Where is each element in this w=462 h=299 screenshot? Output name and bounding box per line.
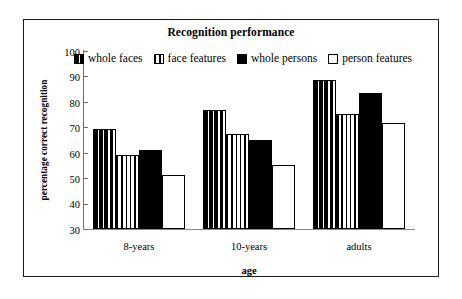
bar-group: 10-years — [194, 51, 304, 229]
y-axis-tick-label: 70 — [70, 123, 85, 134]
bar-whole-persons[interactable] — [249, 140, 272, 229]
legend-swatch-narrow-vertical-stripes-icon — [154, 54, 164, 64]
y-axis-tick: 60 — [70, 144, 85, 162]
bar-person-features[interactable] — [162, 175, 185, 229]
y-axis-tick: 90 — [70, 67, 85, 85]
y-axis-tick: 30 — [70, 220, 85, 238]
bar-whole-persons[interactable] — [359, 93, 382, 229]
bar-whole-persons[interactable] — [139, 150, 162, 229]
legend-item[interactable]: person features — [328, 53, 412, 65]
legend-item[interactable]: whole persons — [237, 53, 317, 65]
legend-label: face features — [168, 53, 226, 65]
legend-swatch-solid-black-icon — [237, 54, 247, 64]
x-axis-category-label: 10-years — [194, 241, 304, 252]
y-axis-tick-label: 80 — [70, 98, 85, 109]
y-axis-tick-label: 60 — [70, 149, 85, 160]
bar-face-features[interactable] — [226, 134, 249, 229]
y-axis-tick-label: 50 — [70, 174, 85, 185]
x-axis-line — [83, 229, 415, 230]
x-axis-title: age — [83, 265, 415, 276]
bar-face-features[interactable] — [336, 114, 359, 229]
legend-label: whole persons — [251, 53, 317, 65]
legend-label: whole faces — [88, 53, 143, 65]
y-axis-tick-mark — [84, 229, 88, 230]
x-axis-category-label: 8-years — [84, 241, 194, 252]
x-axis-category-label: adults — [304, 241, 414, 252]
y-axis-tick-label: 90 — [70, 72, 85, 83]
y-axis-tick: 80 — [70, 93, 85, 111]
y-axis-tick: 40 — [70, 195, 85, 213]
y-axis-tick: 50 — [70, 169, 85, 187]
bar-face-features[interactable] — [116, 155, 139, 229]
legend-swatch-wide-vertical-stripes-icon — [74, 54, 84, 64]
bar-group: 8-years — [84, 51, 194, 229]
legend-item[interactable]: face features — [154, 53, 226, 65]
legend-swatch-white-empty-icon — [328, 54, 338, 64]
chart-legend: whole facesface featureswhole personsper… — [74, 50, 426, 67]
bar-group: adults — [304, 51, 414, 229]
legend-label: person features — [342, 53, 412, 65]
chart-frame: Recognition performance percentage corre… — [23, 19, 439, 277]
plot-area: 10090807060504030 8-years10-yearsadults — [84, 51, 414, 229]
legend-item[interactable]: whole faces — [74, 53, 143, 65]
chart-title: Recognition performance — [24, 26, 438, 38]
y-axis-tick-label: 30 — [70, 225, 85, 236]
y-axis-title-container: percentage correct recognition — [41, 51, 55, 229]
bar-whole-faces[interactable] — [203, 110, 226, 230]
bar-person-features[interactable] — [272, 165, 295, 229]
y-axis-tick-label: 40 — [70, 199, 85, 210]
y-axis-tick: 70 — [70, 118, 85, 136]
bar-whole-faces[interactable] — [93, 129, 116, 229]
bar-groups: 8-years10-yearsadults — [84, 51, 414, 229]
y-axis-title: percentage correct recognition — [39, 51, 53, 229]
bar-person-features[interactable] — [382, 123, 405, 229]
bar-whole-faces[interactable] — [313, 80, 336, 229]
